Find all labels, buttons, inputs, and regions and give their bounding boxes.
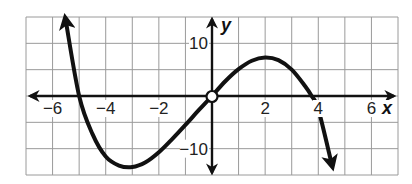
- x-axis-label: x: [381, 98, 393, 118]
- x-tick-label: −4: [96, 99, 115, 118]
- y-axis-label: y: [220, 15, 232, 35]
- x-tick-label: 4: [314, 99, 323, 118]
- function-graph: −6−4−224610−10yx: [0, 0, 412, 184]
- x-tick-label: −6: [43, 99, 62, 118]
- y-tick-label: −10: [179, 140, 208, 159]
- y-tick-label: 10: [189, 34, 208, 53]
- x-tick-label: 2: [260, 99, 269, 118]
- open-point-marker: [207, 91, 218, 102]
- x-tick-label: 6: [367, 99, 376, 118]
- x-tick-label: −2: [149, 99, 168, 118]
